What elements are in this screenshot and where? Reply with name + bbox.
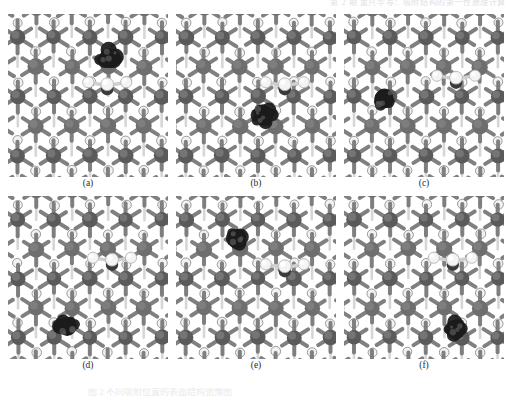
panel-label-c: (c) — [344, 178, 504, 188]
panel-row-top: (a) (b) (c) — [0, 14, 514, 194]
figure-panel-b — [176, 14, 336, 177]
panel-row-bottom: (d) (e) (f) — [0, 196, 514, 376]
running-head-text: 第 2 期 董兴华等：吸附结构的第一性原理计算 — [330, 0, 506, 7]
panel-label-d: (d) — [8, 360, 168, 370]
panel-label-b: (b) — [176, 178, 336, 188]
panel-label-a: (a) — [8, 178, 168, 188]
panel-b-structure — [176, 14, 336, 177]
figure-panel-a — [8, 14, 168, 177]
panel-c-structure — [344, 14, 504, 177]
panel-label-e: (e) — [176, 360, 336, 370]
figure-panel-d — [8, 196, 168, 359]
panel-label-f: (f) — [344, 360, 504, 370]
figure-panel-grid: (a) (b) (c) (d) (e) (f) — [0, 14, 514, 382]
figure-panel-e — [176, 196, 336, 359]
running-head: 第 2 期 董兴华等：吸附结构的第一性原理计算 — [0, 0, 514, 9]
figure-caption: 图 2 不同吸附位置的表面结构弛豫图 — [0, 388, 514, 400]
panel-e-structure — [176, 196, 336, 359]
panel-f-structure — [344, 196, 504, 359]
figure-panel-f — [344, 196, 504, 359]
panel-d-structure — [8, 196, 168, 359]
panel-a-structure — [8, 14, 168, 177]
figure-caption-text: 图 2 不同吸附位置的表面结构弛豫图 — [88, 388, 232, 398]
figure-panel-c — [344, 14, 504, 177]
